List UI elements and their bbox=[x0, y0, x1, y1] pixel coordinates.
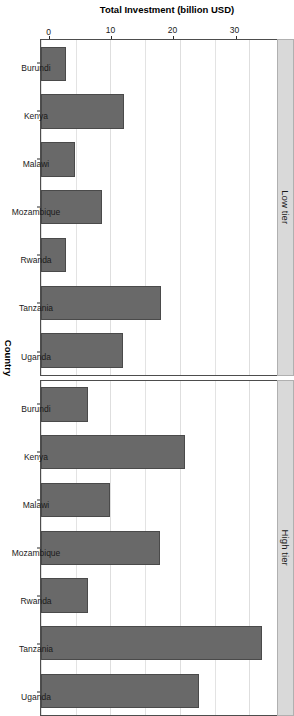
bar bbox=[41, 674, 199, 708]
x-axis-tick: Mozambique bbox=[14, 183, 40, 231]
x-axis-tick: Burundi bbox=[14, 380, 40, 428]
x-axis-tick-label: Uganda bbox=[21, 692, 51, 702]
x-axis-tick: Burundi bbox=[14, 39, 40, 87]
plot-area-row: Total Investment (billion USD) 0102030 L… bbox=[40, 0, 294, 716]
x-axis-tick: Malawi bbox=[14, 476, 40, 524]
x-axis-spacer-ticks bbox=[14, 17, 40, 39]
facet-x-labels: BurundiKenyaMalawiMozambiqueRwandaTanzan… bbox=[14, 380, 40, 716]
x-axis-tick-row: BurundiKenyaMalawiMozambiqueRwandaTanzan… bbox=[14, 0, 40, 716]
x-axis-tick-label: Burundi bbox=[21, 63, 50, 73]
bar-slot bbox=[41, 667, 277, 715]
bar-slot bbox=[41, 428, 277, 476]
bar-slot bbox=[41, 619, 277, 667]
x-axis-tick: Tanzania bbox=[14, 279, 40, 327]
bar bbox=[41, 286, 161, 320]
bar-series bbox=[41, 381, 277, 716]
bar bbox=[41, 626, 262, 660]
y-axis-title: Total Investment (billion USD) bbox=[100, 3, 234, 14]
y-axis-tick-label: 10 bbox=[106, 25, 118, 35]
x-axis-title-row: Country bbox=[0, 0, 14, 716]
x-axis-tick-label: Tanzania bbox=[19, 303, 53, 313]
x-axis-tick: Rwanda bbox=[14, 231, 40, 279]
facet-strip-label: High tier bbox=[277, 380, 294, 716]
x-axis-tick: Mozambique bbox=[14, 524, 40, 572]
x-axis-tick-label: Rwanda bbox=[20, 255, 51, 265]
x-axis-tick-label: Kenya bbox=[24, 452, 48, 462]
x-axis-tick: Kenya bbox=[14, 428, 40, 476]
y-axis-title-column: Total Investment (billion USD) bbox=[40, 0, 294, 17]
y-axis-tick: 0 bbox=[45, 28, 55, 39]
facet-panels-container: Low tierHigh tier bbox=[40, 39, 294, 716]
facet-strip-label: Low tier bbox=[277, 39, 294, 376]
y-axis-tick-label: 20 bbox=[168, 25, 180, 35]
y-axis-tick-label: 30 bbox=[230, 25, 242, 35]
bar-slot bbox=[41, 231, 277, 279]
x-axis-spacer-left bbox=[14, 0, 40, 17]
x-axis-tick-label: Malawi bbox=[23, 500, 49, 510]
bar-slot bbox=[41, 183, 277, 231]
x-axis-labels-container: BurundiKenyaMalawiMozambiqueRwandaTanzan… bbox=[14, 39, 40, 716]
x-axis-title: Country bbox=[3, 340, 14, 376]
y-axis-tick: 30 bbox=[231, 24, 241, 39]
x-axis-tick-label: Tanzania bbox=[19, 644, 53, 654]
bar-series bbox=[41, 40, 277, 375]
y-axis-tick-column: 0102030 bbox=[40, 17, 294, 39]
x-axis-tick: Malawi bbox=[14, 135, 40, 183]
chart-figure: Total Investment (billion USD) 0102030 L… bbox=[0, 0, 294, 716]
y-axis-tick: 10 bbox=[107, 24, 117, 39]
x-axis-tick: Kenya bbox=[14, 87, 40, 135]
x-axis-tick-label: Rwanda bbox=[20, 596, 51, 606]
bar-slot bbox=[41, 279, 277, 327]
bar-slot bbox=[41, 572, 277, 620]
bar-slot bbox=[41, 88, 277, 136]
facet-panel-high-tier: High tier bbox=[40, 380, 294, 716]
x-axis-tick: Rwanda bbox=[14, 572, 40, 620]
x-axis-tick-label: Mozambique bbox=[12, 548, 61, 558]
x-axis-tick-label: Kenya bbox=[24, 111, 48, 121]
figure-inner: Total Investment (billion USD) 0102030 L… bbox=[0, 0, 294, 716]
x-axis-tick: Tanzania bbox=[14, 620, 40, 668]
x-axis-tick: Uganda bbox=[14, 668, 40, 716]
panel-plot-region bbox=[40, 380, 277, 716]
x-axis-tick: Uganda bbox=[14, 327, 40, 375]
bar-slot bbox=[41, 136, 277, 184]
y-axis-tick: 20 bbox=[169, 24, 179, 39]
y-axis-tick-label: 0 bbox=[46, 27, 54, 37]
bar-slot bbox=[41, 524, 277, 572]
bar-slot bbox=[41, 327, 277, 375]
rotated-canvas-wrapper: Total Investment (billion USD) 0102030 L… bbox=[0, 0, 294, 716]
facet-x-labels: BurundiKenyaMalawiMozambiqueRwandaTanzan… bbox=[14, 39, 40, 376]
panel-plot-region bbox=[40, 39, 277, 376]
x-axis-tick-label: Burundi bbox=[21, 404, 50, 414]
facet-panel-low-tier: Low tier bbox=[40, 39, 294, 376]
bar bbox=[41, 483, 110, 517]
x-axis-tick-label: Uganda bbox=[21, 352, 51, 362]
bar-slot bbox=[41, 381, 277, 429]
x-axis-tick-label: Mozambique bbox=[12, 207, 61, 217]
bar-slot bbox=[41, 476, 277, 524]
bar bbox=[41, 435, 185, 469]
x-axis-tick-label: Malawi bbox=[23, 159, 49, 169]
bar-slot bbox=[41, 40, 277, 88]
bar bbox=[41, 333, 123, 367]
bar bbox=[41, 94, 124, 128]
